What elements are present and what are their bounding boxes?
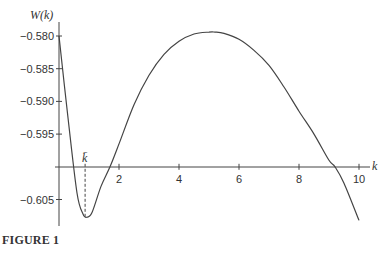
figure-caption: FIGURE 1 bbox=[2, 233, 59, 248]
y-ticks: −0.580−0.585−0.590−0.595−0.605 bbox=[20, 30, 62, 206]
x-tick-label: 4 bbox=[176, 173, 182, 185]
x-tick-label: 8 bbox=[296, 173, 302, 185]
chart: −0.580−0.585−0.590−0.595−0.605 246810 W(… bbox=[0, 0, 391, 232]
w-of-k-curve bbox=[59, 32, 359, 221]
x-axis-title: k bbox=[372, 159, 378, 173]
y-tick-label: −0.605 bbox=[20, 194, 54, 206]
x-tick-label: 2 bbox=[116, 173, 122, 185]
y-tick-label: −0.585 bbox=[20, 63, 54, 75]
k-bar-label: k̄ bbox=[82, 151, 88, 165]
y-axis-title: W(k) bbox=[30, 8, 53, 22]
y-tick-label: −0.590 bbox=[20, 95, 54, 107]
x-tick-label: 6 bbox=[236, 173, 242, 185]
y-tick-label: −0.595 bbox=[20, 128, 54, 140]
y-tick-label: −0.580 bbox=[20, 30, 54, 42]
x-tick-label: 10 bbox=[353, 173, 365, 185]
